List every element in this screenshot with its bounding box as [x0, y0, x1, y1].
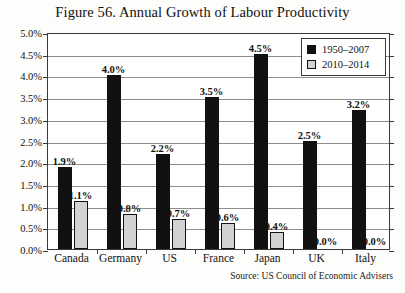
y-axis-tick-label: 5.0% [2, 28, 42, 39]
bar-japan-series2[interactable]: 0.4% [270, 232, 284, 249]
legend-swatch-icon [307, 60, 316, 69]
y-axis-tick-label: 0.0% [2, 245, 42, 256]
y-axis-tick-mark [389, 251, 394, 252]
bar-value-label: 0.4% [265, 221, 289, 232]
x-axis-tick-mark [195, 249, 196, 254]
bar-value-label: 3.2% [347, 99, 371, 110]
bar-value-label: 1.1% [69, 190, 93, 201]
bar-us-series2[interactable]: 0.7% [172, 219, 186, 249]
y-axis-tick-label: 2.0% [2, 158, 42, 169]
bar-value-label: 0.0% [314, 236, 338, 247]
bar-france-series2[interactable]: 0.6% [221, 223, 235, 249]
bar-value-label: 4.5% [249, 43, 273, 54]
y-axis-tick-label: 1.5% [2, 179, 42, 190]
category-label-japan: Japan [254, 252, 280, 264]
bar-canada-series1[interactable]: 1.9% [58, 167, 72, 249]
category-label-france: France [203, 252, 234, 264]
legend-label: 2010–2014 [322, 59, 369, 70]
category-label-italy: Italy [355, 252, 376, 264]
y-axis-tick-label: 3.5% [2, 93, 42, 104]
bar-italy-series1[interactable]: 3.2% [352, 110, 366, 249]
y-axis-tick-mark [43, 251, 48, 252]
y-axis-tick-label: 1.0% [2, 201, 42, 212]
bar-value-label: 0.6% [216, 212, 240, 223]
y-axis-tick-label: 2.5% [2, 136, 42, 147]
bar-value-label: 1.9% [53, 156, 77, 167]
legend-label: 1950–2007 [322, 44, 369, 55]
bar-value-label: 2.2% [151, 143, 175, 154]
figure-container: Figure 56. Annual Growth of Labour Produ… [0, 0, 405, 293]
bar-us-series1[interactable]: 2.2% [156, 154, 170, 249]
bar-group: 1.9%1.1% [48, 34, 97, 249]
y-axis-tick-label: 4.5% [2, 49, 42, 60]
bar-value-label: 4.0% [102, 64, 126, 75]
x-axis-tick-mark [342, 249, 343, 254]
y-axis-tick-label: 3.0% [2, 114, 42, 125]
bar-group: 4.5%0.4% [244, 34, 293, 249]
bar-group: 2.2%0.7% [146, 34, 195, 249]
legend-item-1[interactable]: 1950–2007 [307, 42, 380, 57]
source-note: Source: US Council of Economic Advisers [230, 271, 393, 281]
legend: 1950–20072010–2014 [301, 38, 386, 76]
y-axis-tick-label: 0.5% [2, 223, 42, 234]
bar-value-label: 0.0% [363, 236, 387, 247]
bar-value-label: 0.7% [167, 208, 191, 219]
chart-title: Figure 56. Annual Growth of Labour Produ… [0, 4, 405, 21]
bar-group: 4.0%0.8% [97, 34, 146, 249]
category-label-germany: Germany [99, 252, 142, 264]
x-axis-tick-mark [97, 249, 98, 254]
legend-item-2[interactable]: 2010–2014 [307, 57, 380, 72]
x-axis-tick-mark [293, 249, 294, 254]
bar-group: 3.5%0.6% [195, 34, 244, 249]
x-axis-tick-mark [146, 249, 147, 254]
x-axis-tick-mark [244, 249, 245, 254]
category-label-canada: Canada [54, 252, 88, 264]
bar-value-label: 3.5% [200, 86, 224, 97]
bar-uk-series1[interactable]: 2.5% [303, 141, 317, 250]
category-label-us: US [162, 252, 177, 264]
bar-value-label: 2.5% [298, 130, 322, 141]
bar-germany-series1[interactable]: 4.0% [107, 75, 121, 249]
bar-canada-series2[interactable]: 1.1% [74, 201, 88, 249]
bar-germany-series2[interactable]: 0.8% [123, 214, 137, 249]
y-axis-tick-label: 4.0% [2, 71, 42, 82]
bar-france-series1[interactable]: 3.5% [205, 97, 219, 249]
bar-value-label: 0.8% [118, 203, 142, 214]
legend-swatch-icon [307, 45, 316, 54]
category-label-uk: UK [308, 252, 325, 264]
